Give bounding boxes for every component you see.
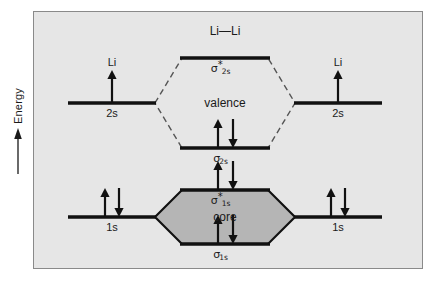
mo-label-sigma-star-2s: σ*2s	[198, 62, 244, 75]
sigma-glyph: σ	[211, 62, 218, 75]
sigma-glyph: σ	[211, 194, 218, 207]
mo-diagram-figure: Energy	[0, 0, 442, 283]
atom-label-left: Li	[97, 56, 127, 68]
mo-label-sigma-1s: σ1s	[198, 248, 244, 261]
energy-axis: Energy	[7, 71, 29, 191]
level-label-left-2s: 2s	[97, 107, 127, 119]
sub-glyph: 1s	[222, 199, 231, 208]
atom-label-right: Li	[323, 56, 353, 68]
mo-label-sigma-2s: σ2s	[198, 152, 244, 165]
diagram-frame	[33, 11, 423, 269]
sub-glyph: 1s	[219, 253, 228, 262]
level-label-left-1s: 1s	[97, 221, 127, 233]
region-label-core: core	[186, 210, 264, 224]
mo-label-sigma-star-1s: σ*1s	[198, 194, 244, 207]
level-label-right-2s: 2s	[323, 107, 353, 119]
diagram-title: Li—Li	[185, 24, 265, 38]
sub-glyph: 2s	[219, 157, 228, 166]
up-arrow-icon	[13, 128, 23, 174]
sub-glyph: 2s	[222, 67, 231, 76]
energy-axis-label: Energy	[12, 88, 24, 124]
region-label-valence: valence	[186, 96, 264, 110]
level-label-right-1s: 1s	[323, 221, 353, 233]
